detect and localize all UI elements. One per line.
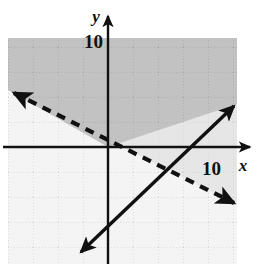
x-axis-tick-label-10: 10 — [202, 158, 221, 179]
coordinate-plane-svg: y 10 10 x — [0, 0, 265, 264]
x-axis-label: x — [238, 156, 248, 175]
graph-canvas: y 10 10 x — [0, 0, 265, 264]
y-axis-tick-label-10: 10 — [84, 31, 103, 52]
y-axis-label: y — [90, 7, 100, 26]
